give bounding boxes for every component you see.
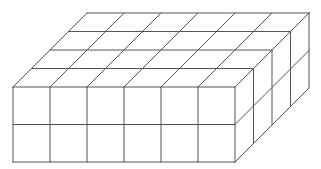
unit-cube-prism: [0, 0, 321, 169]
cuboid-diagram: [0, 0, 321, 169]
